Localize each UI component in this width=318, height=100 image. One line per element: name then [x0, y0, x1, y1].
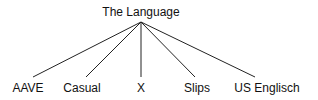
leaf-node-label: Slips — [184, 81, 210, 95]
leaf-node-label: X — [137, 81, 145, 95]
leaf-node-label: AAVE — [12, 81, 43, 95]
root-node-label: The Language — [102, 5, 179, 19]
edge-us-englisch — [141, 22, 255, 77]
leaf-node-label: Casual — [63, 81, 100, 95]
edge-slips — [141, 22, 195, 77]
leaf-node-label: US Englisch — [234, 81, 299, 95]
edge-casual — [86, 22, 141, 77]
edge-aave — [33, 22, 141, 77]
